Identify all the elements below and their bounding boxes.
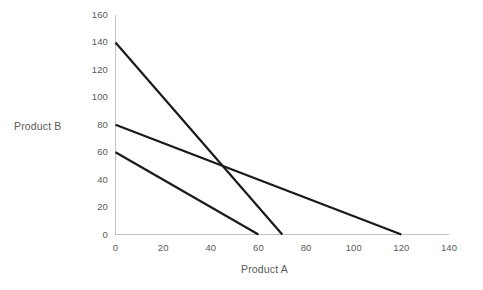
y-axis-title: Product B: [14, 121, 61, 132]
data-line-1: [116, 42, 283, 234]
data-line-3: [116, 152, 259, 234]
x-tick-label: 80: [301, 243, 312, 253]
data-series-group: [116, 42, 402, 234]
x-tick-label: 20: [158, 243, 169, 253]
y-tick-label: 40: [78, 175, 108, 185]
plot-area: [0, 0, 483, 290]
y-tick-label: 80: [78, 120, 108, 130]
x-tick-label: 0: [113, 243, 118, 253]
x-tick-label: 100: [346, 243, 362, 253]
x-tick-label: 140: [441, 243, 457, 253]
y-tick-label: 120: [78, 65, 108, 75]
y-tick-label: 100: [78, 93, 108, 103]
x-tick-label: 40: [205, 243, 216, 253]
chart-container: 020406080100120140160 020406080100120140…: [0, 0, 483, 290]
x-axis-title: Product A: [0, 264, 483, 275]
data-line-2: [116, 125, 402, 235]
y-tick-label: 0: [78, 230, 108, 240]
y-tick-label: 140: [78, 38, 108, 48]
y-tick-label: 60: [78, 147, 108, 157]
y-tick-label: 160: [78, 10, 108, 20]
x-tick-label: 60: [253, 243, 264, 253]
x-tick-label: 120: [393, 243, 409, 253]
y-tick-label: 20: [78, 202, 108, 212]
